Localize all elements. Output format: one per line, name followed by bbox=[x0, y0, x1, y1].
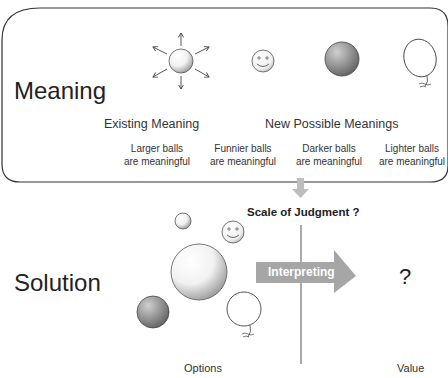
down-arrow-icon bbox=[292, 178, 309, 198]
solution-row-label: Solution bbox=[14, 269, 101, 297]
dark-ball-option-icon bbox=[137, 296, 169, 328]
value-question-mark: ? bbox=[399, 264, 411, 290]
large-ball-icon bbox=[171, 244, 227, 300]
meaning-row-label: Meaning bbox=[14, 77, 106, 105]
small-ball-icon bbox=[175, 213, 191, 229]
smiley-ball-icon bbox=[252, 50, 274, 72]
balloon-icon bbox=[400, 36, 441, 87]
caption-larger: Larger balls are meaningful bbox=[117, 142, 197, 168]
radiating-ball-icon bbox=[153, 33, 209, 89]
existing-meaning-heading: Existing Meaning bbox=[104, 117, 199, 131]
smiley-ball-option-icon bbox=[222, 221, 244, 243]
caption-lighter: Lighter balls are meaningful bbox=[372, 142, 448, 168]
diagram-graphics bbox=[0, 0, 448, 378]
interpreting-label: Interpreting bbox=[268, 265, 335, 279]
caption-darker: Darker balls are meaningful bbox=[289, 142, 369, 168]
balloon-option-icon bbox=[227, 292, 261, 337]
value-label: Value bbox=[397, 362, 424, 374]
dark-ball-icon bbox=[325, 42, 359, 76]
scale-of-judgment-label: Scale of Judgment ? bbox=[247, 206, 359, 218]
caption-funnier: Funnier balls are meaningful bbox=[203, 142, 283, 168]
options-label: Options bbox=[184, 362, 222, 374]
new-meanings-heading: New Possible Meanings bbox=[265, 117, 398, 131]
